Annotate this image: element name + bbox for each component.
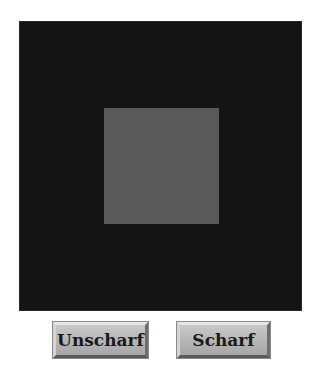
- scharf-button-label: Scharf: [192, 330, 254, 350]
- gray-square: [104, 108, 219, 224]
- image-canvas: [19, 21, 302, 311]
- scharf-button[interactable]: Scharf: [177, 322, 270, 358]
- unscharf-button-label: Unscharf: [57, 330, 144, 350]
- unscharf-button[interactable]: Unscharf: [53, 322, 148, 358]
